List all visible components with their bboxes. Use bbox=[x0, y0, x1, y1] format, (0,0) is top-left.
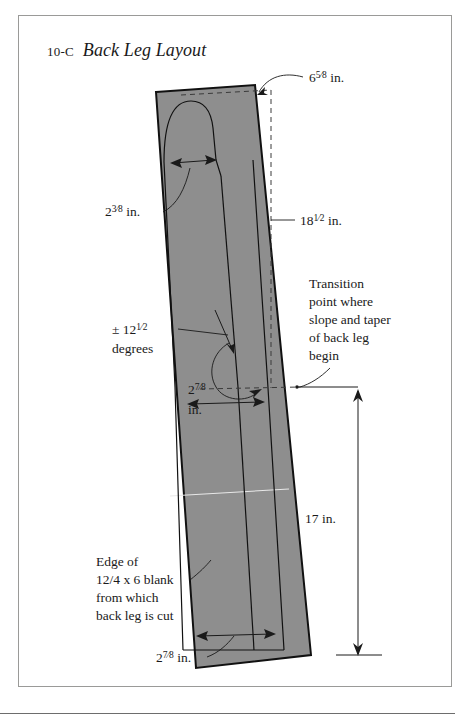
figure-page: 10-CBack Leg Layout 65⁄8 in. bbox=[0, 0, 472, 726]
transition-note-line-1: Transition bbox=[309, 276, 364, 291]
upper-width-label: 23⁄8 in. bbox=[105, 204, 140, 219]
bottom-width-label: 27⁄8 in. bbox=[156, 650, 191, 665]
transition-note-line-5: begin bbox=[309, 348, 339, 363]
blank-note-line-4: back leg is cut bbox=[96, 608, 174, 623]
top-width-arrowhead bbox=[257, 87, 268, 95]
angle-label-line-1: ± 121⁄2 bbox=[112, 322, 148, 337]
blank-board-outline bbox=[156, 85, 311, 668]
blank-note-line-2: 12/4 x 6 blank bbox=[96, 572, 174, 587]
blank-note-line-1: Edge of bbox=[96, 554, 139, 569]
top-width-label: 65⁄8 in. bbox=[309, 70, 344, 85]
transition-note-line-2: point where bbox=[309, 294, 373, 309]
back-leg-drawing: 65⁄8 in. 23⁄8 in. 181⁄2 in. Transition p… bbox=[0, 0, 472, 726]
transition-point-dot bbox=[295, 385, 299, 389]
upper-length-label: 181⁄2 in. bbox=[300, 213, 342, 228]
transition-note-line-3: slope and taper bbox=[309, 312, 391, 327]
mid-width-label-line-2: in. bbox=[188, 402, 202, 417]
transition-note-line-4: of back leg bbox=[309, 330, 369, 345]
angle-label-line-2: degrees bbox=[112, 341, 153, 356]
top-width-leader bbox=[259, 75, 303, 92]
transition-note-leader bbox=[300, 368, 330, 387]
lower-length-label: 17 in. bbox=[305, 511, 336, 526]
blank-note-line-3: from which bbox=[96, 590, 159, 605]
